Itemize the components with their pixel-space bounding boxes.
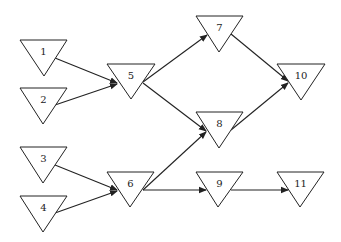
directed-graph-diagram: 1234567891011 [0,0,341,242]
node-10: 10 [277,64,325,100]
node-4: 4 [20,196,67,232]
edge-8-to-10 [231,83,288,130]
node-label: 11 [294,178,307,189]
node-label: 9 [216,178,222,189]
edge-6-to-8 [143,132,206,190]
edge-5-to-8 [143,83,206,131]
nodes-layer: 1234567891011 [20,16,325,232]
node-label: 4 [40,202,46,213]
node-8: 8 [196,112,243,148]
node-1: 1 [20,40,67,76]
node-label: 3 [40,153,46,164]
node-label: 1 [40,46,46,57]
edge-3-to-6 [55,165,117,190]
node-label: 7 [216,22,222,33]
node-label: 6 [127,178,133,189]
edge-1-to-5 [55,58,117,83]
node-label: 8 [216,118,222,129]
node-3: 3 [20,147,67,183]
edges-layer [55,34,288,213]
edge-2-to-5 [55,84,117,105]
node-label: 5 [128,70,134,81]
edge-7-to-10 [231,34,288,81]
node-2: 2 [20,88,67,124]
edge-5-to-7 [143,35,207,82]
node-label: 2 [40,94,46,105]
node-label: 10 [295,70,308,81]
edge-4-to-6 [55,191,117,213]
node-7: 7 [196,16,243,52]
